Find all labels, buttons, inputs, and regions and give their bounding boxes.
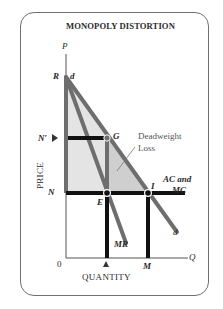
ac-mc-label-line1: AC and — [163, 174, 191, 184]
label-g: G — [113, 131, 120, 141]
deadweight-label-line1: Deadweight — [138, 131, 181, 141]
label-r: R — [53, 71, 59, 81]
ac-mc-label-line2: MC — [172, 185, 186, 195]
point-g — [104, 135, 110, 141]
label-e: E — [97, 197, 103, 207]
label-mr: MR — [114, 239, 128, 249]
n-prime-marker-icon — [52, 134, 58, 142]
ac-label: AC and — [163, 174, 191, 184]
origin-label: 0 — [57, 259, 62, 269]
point-e — [104, 190, 111, 197]
label-m: M — [143, 261, 151, 271]
y-axis-title: PRICE — [35, 162, 45, 189]
label-d-top: d — [70, 71, 75, 81]
label-i: I — [151, 181, 155, 191]
label-d-bottom: d — [173, 227, 178, 237]
deadweight-label-line2: Loss — [138, 143, 155, 153]
monopoly-diagram — [0, 0, 223, 309]
x-axis-symbol: Q — [189, 252, 196, 262]
y-axis-symbol: P — [62, 41, 68, 51]
x-axis-title: QUANTITY — [82, 272, 131, 282]
quantity-marker-icon — [103, 261, 109, 267]
label-n-prime: N′ — [38, 133, 47, 143]
diagram-title: MONOPOLY DISTORTION — [66, 21, 175, 31]
label-n: N — [48, 187, 55, 197]
